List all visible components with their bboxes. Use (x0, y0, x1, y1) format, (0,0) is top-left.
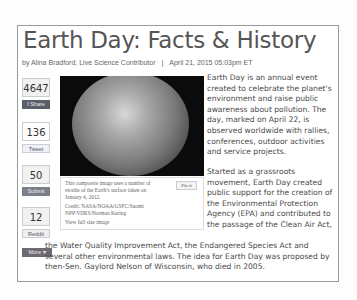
publish-date: April 21, 2015 05:03pm ET (169, 59, 252, 66)
facebook-share-button[interactable]: f Share (22, 100, 50, 109)
social-facebook: 4647 f Share (22, 78, 50, 109)
earth-photo[interactable] (60, 76, 204, 176)
image-credit: Credit: NASA/NOAA/GSFC/Suomi NPP/VIIRS/N… (65, 203, 163, 217)
social-stumbleupon: 50 Submit (22, 165, 50, 196)
social-reddit: 12 Reddit (22, 207, 50, 238)
earth-globe-image (72, 76, 189, 176)
pin-it-button[interactable]: Pin it (176, 181, 197, 190)
twitter-count: 136 (22, 122, 50, 141)
byline: by Alina Bradford, Live Science Contribu… (22, 59, 253, 66)
view-full-size-link[interactable]: View full size image (65, 219, 163, 226)
stumbleupon-count: 50 (22, 165, 50, 184)
image-caption: Pin it This composite image uses a numbe… (60, 177, 204, 230)
stumbleupon-submit-button[interactable]: Submit (22, 187, 50, 196)
facebook-count: 4647 (22, 78, 50, 97)
paragraph-1: Earth Day is an annual event created to … (207, 73, 337, 158)
byline-separator: | (161, 59, 163, 66)
tweet-button[interactable]: Tweet (22, 144, 50, 153)
reddit-button[interactable]: Reddit (22, 229, 50, 238)
social-twitter: 136 Tweet (22, 122, 50, 153)
paragraph-2: Started as a grassroots movement, Earth … (207, 167, 337, 231)
author[interactable]: by Alina Bradford, Live Science Contribu… (22, 59, 155, 66)
caption-text: This composite image uses a number of sw… (65, 180, 163, 201)
paragraph-3: the Water Quality Improvement Act, the E… (45, 241, 337, 273)
article-frame: Earth Day: Facts & History by Alina Brad… (17, 25, 339, 282)
reddit-count: 12 (22, 207, 50, 226)
page-title: Earth Day: Facts & History (23, 27, 316, 53)
